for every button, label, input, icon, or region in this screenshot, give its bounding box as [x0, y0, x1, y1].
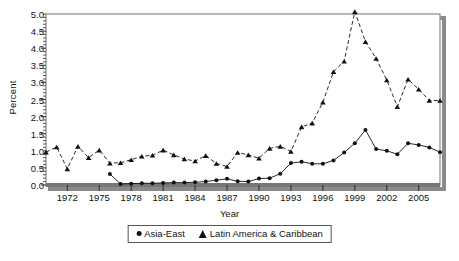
legend-label: Asia-East: [144, 228, 185, 239]
x-tick-label: 1993: [280, 192, 301, 203]
x-tick-label: 1975: [89, 192, 110, 203]
chart-legend: Asia-EastLatin America & Caribbean: [127, 225, 332, 243]
x-tick-label: 1978: [121, 192, 142, 203]
x-tick-label: 1996: [312, 192, 333, 203]
circle-marker-icon: [136, 231, 141, 236]
x-tick-label: 1981: [153, 192, 174, 203]
triangle-marker-icon: [199, 230, 207, 238]
x-tick-label: 1984: [185, 192, 206, 203]
legend-entry[interactable]: Latin America & Caribbean: [199, 228, 323, 239]
plot-area: [0, 0, 459, 261]
legend-entry[interactable]: Asia-East: [136, 228, 185, 239]
legend-label: Latin America & Caribbean: [210, 228, 323, 239]
x-tick-label: 2002: [376, 192, 397, 203]
x-tick-label: 1987: [216, 192, 237, 203]
chart-figure: Percent 0.00.51.01.52.02.53.03.54.04.55.…: [0, 0, 459, 261]
x-tick-label: 2005: [408, 192, 429, 203]
x-tick-label: 1972: [57, 192, 78, 203]
x-axis-title: Year: [0, 208, 459, 219]
x-tick-label: 1999: [344, 192, 365, 203]
x-tick-label: 1990: [248, 192, 269, 203]
